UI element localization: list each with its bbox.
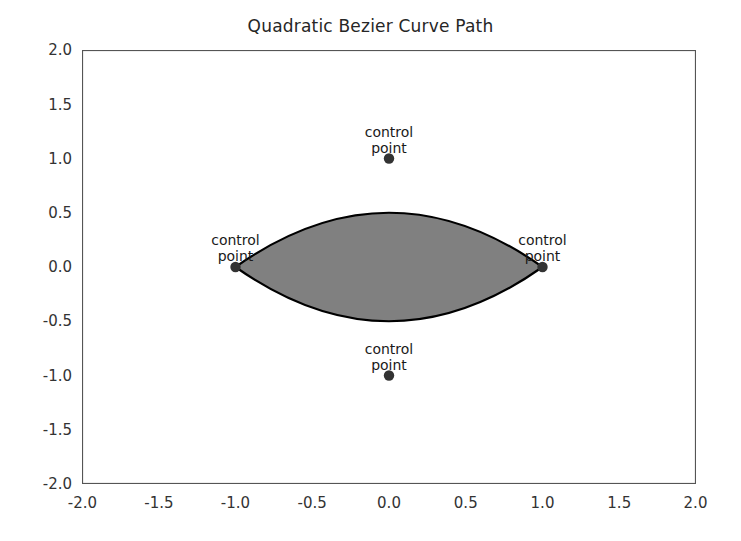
plot-canvas bbox=[82, 50, 696, 484]
plot-axes: 2.0 1.5 1.0 0.5 0.0 -0.5 -1.0 -1.5 -2.0 … bbox=[82, 50, 696, 484]
matplotlib-figure: Quadratic Bezier Curve Path bbox=[0, 0, 741, 541]
y-tick-label--2.0: -2.0 bbox=[26, 475, 72, 493]
x-tick-label--2.0: -2.0 bbox=[68, 494, 97, 512]
control-point-marker-bottom bbox=[384, 370, 394, 380]
control-point-marker-left bbox=[230, 262, 240, 272]
y-tick-label--1.0: -1.0 bbox=[26, 367, 72, 385]
x-tick-label-2.0: 2.0 bbox=[684, 494, 708, 512]
y-tick-label-0.5: 0.5 bbox=[26, 204, 72, 222]
y-tick-label-2.0: 2.0 bbox=[26, 41, 72, 59]
x-tick-label-0.5: 0.5 bbox=[454, 494, 478, 512]
x-tick-label-0.0: 0.0 bbox=[377, 494, 401, 512]
y-tick-label-1.5: 1.5 bbox=[26, 96, 72, 114]
x-tick-label--1.5: -1.5 bbox=[144, 494, 173, 512]
y-tick-label--1.5: -1.5 bbox=[26, 421, 72, 439]
x-tick-label--0.5: -0.5 bbox=[298, 494, 327, 512]
y-tick-label--0.5: -0.5 bbox=[26, 312, 72, 330]
chart-title: Quadratic Bezier Curve Path bbox=[0, 16, 741, 36]
x-tick-label-1.0: 1.0 bbox=[531, 494, 555, 512]
y-tick-label-0.0: 0.0 bbox=[26, 258, 72, 276]
x-tick-label-1.5: 1.5 bbox=[607, 494, 631, 512]
control-point-marker-right bbox=[537, 262, 547, 272]
y-tick-label-1.0: 1.0 bbox=[26, 150, 72, 168]
control-point-marker-top bbox=[384, 153, 394, 163]
x-tick-label--1.0: -1.0 bbox=[221, 494, 250, 512]
